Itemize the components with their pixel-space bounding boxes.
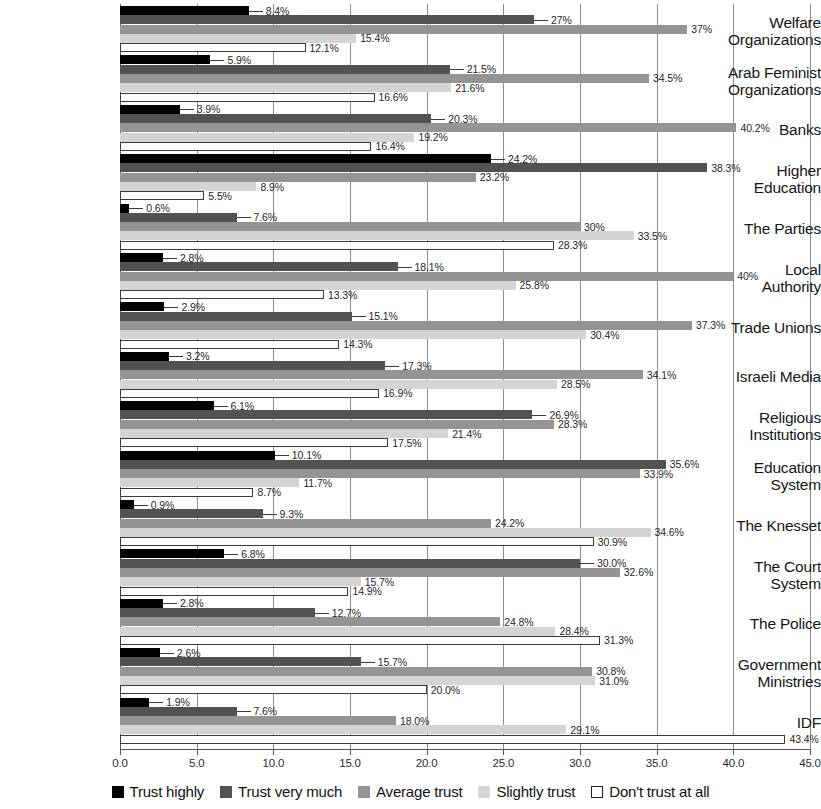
bar-slightly-trust xyxy=(120,133,414,142)
bar-don-t-trust-at-all xyxy=(120,735,785,744)
legend-item-average-trust[interactable]: Average trust xyxy=(358,783,462,800)
value-leader-line xyxy=(532,415,546,416)
bar-trust-very-much xyxy=(120,65,450,74)
legend-item-slightly-trust[interactable]: Slightly trust xyxy=(478,783,575,800)
value-leader-line xyxy=(450,69,464,70)
category-label-welfare-organizations: WelfareOrganizations xyxy=(709,14,821,48)
value-leader-line xyxy=(315,613,329,614)
bar-value-label: 16.9% xyxy=(383,387,412,399)
legend-swatch-black xyxy=(112,786,124,798)
bar-value-label: 8.9% xyxy=(260,181,284,193)
category-label-idf: IDF xyxy=(709,714,821,731)
bar-average-trust xyxy=(120,519,491,528)
value-leader-line xyxy=(361,662,375,663)
bar-trust-very-much xyxy=(120,163,707,172)
bar-value-label: 15.4% xyxy=(360,32,389,44)
legend-item-trust-very-much[interactable]: Trust very much xyxy=(220,783,342,800)
bar-trust-very-much xyxy=(120,460,666,469)
bar-value-label: 11.7% xyxy=(303,477,332,489)
value-leader-line xyxy=(214,406,228,407)
chart-row: The Parties0.6%7.6%30%33.5%28.3% xyxy=(0,204,821,253)
legend-item-don-t-trust-at-all[interactable]: Don't trust at all xyxy=(591,783,709,800)
chart-row: IDF1.9%7.6%18.0%29.1%43.4% xyxy=(0,698,821,747)
bar-trust-highly xyxy=(120,451,275,460)
bar-value-label: 33.5% xyxy=(638,230,667,242)
chart-legend: Trust highlyTrust very muchAverage trust… xyxy=(0,783,821,800)
value-leader-line xyxy=(210,60,224,61)
bar-value-label: 14.9% xyxy=(352,585,381,597)
chart-row: HigherEducation24.2%38.3%23.2%8.9%5.5% xyxy=(0,154,821,203)
bar-don-t-trust-at-all xyxy=(120,43,306,52)
legend-swatch-light-gray xyxy=(478,786,490,798)
chart-row: Banks3.9%20.3%40.2%19.2%16.4% xyxy=(0,105,821,154)
value-leader-line xyxy=(263,514,277,515)
bar-value-label: 23.2% xyxy=(480,171,509,183)
value-leader-line xyxy=(169,356,183,357)
bar-don-t-trust-at-all xyxy=(120,142,371,151)
bar-slightly-trust xyxy=(120,231,634,240)
bar-average-trust xyxy=(120,25,687,34)
bar-trust-very-much xyxy=(120,114,431,123)
value-leader-line xyxy=(129,208,143,209)
category-label-line: System xyxy=(709,476,821,493)
bar-trust-highly xyxy=(120,105,180,114)
bar-value-label: 14.3% xyxy=(343,338,372,350)
bar-don-t-trust-at-all xyxy=(120,685,427,694)
bar-don-t-trust-at-all xyxy=(120,636,600,645)
bar-value-label: 12.1% xyxy=(310,42,339,54)
bar-average-trust xyxy=(120,716,396,725)
bar-value-label: 34.5% xyxy=(653,72,682,84)
legend-swatch-dark-gray xyxy=(220,786,232,798)
value-leader-line xyxy=(385,366,399,367)
category-label-line: Religious xyxy=(709,409,821,426)
bar-value-label: 16.4% xyxy=(375,140,404,152)
bar-average-trust xyxy=(120,617,500,626)
bar-value-label: 8.7% xyxy=(257,486,281,498)
category-label-line: Organizations xyxy=(709,31,821,48)
bar-trust-highly xyxy=(120,6,249,15)
legend-item-label: Slightly trust xyxy=(496,783,575,800)
legend-item-label: Average trust xyxy=(376,783,462,800)
value-leader-line xyxy=(163,258,177,259)
bar-value-label: 16.6% xyxy=(379,91,408,103)
category-label-government-ministries: GovernmentMinistries xyxy=(709,656,821,690)
value-leader-line xyxy=(180,109,194,110)
tick-mark-20.0 xyxy=(427,749,428,755)
category-label-line: The Court xyxy=(709,558,821,575)
legend-item-label: Trust very much xyxy=(238,783,342,800)
bar-trust-very-much xyxy=(120,15,534,24)
bar-value-label: 21.6% xyxy=(455,82,484,94)
category-label-the-knesset: The Knesset xyxy=(709,517,821,534)
chart-row: Arab FeministOrganizations5.9%21.5%34.5%… xyxy=(0,55,821,104)
bar-average-trust xyxy=(120,222,580,231)
value-leader-line xyxy=(352,316,366,317)
x-tick-label: 0.0 xyxy=(112,757,127,769)
x-tick-label: 10.0 xyxy=(263,757,285,769)
category-label-line: IDF xyxy=(709,714,821,731)
tick-mark-35.0 xyxy=(657,749,658,755)
value-leader-line xyxy=(164,307,178,308)
bar-value-label: 28.3% xyxy=(558,239,587,251)
category-label-line: Education xyxy=(709,179,821,196)
bar-trust-very-much xyxy=(120,213,237,222)
legend-item-label: Trust highly xyxy=(130,783,205,800)
bar-average-trust xyxy=(120,173,476,182)
tick-mark-10.0 xyxy=(273,749,274,755)
tick-mark-15.0 xyxy=(350,749,351,755)
legend-item-trust-highly[interactable]: Trust highly xyxy=(112,783,205,800)
bar-value-label: 20.0% xyxy=(431,684,460,696)
chart-row: Israeli Media3.2%17.3%34.1%28.5%16.9% xyxy=(0,352,821,401)
x-tick-label: 15.0 xyxy=(339,757,361,769)
bar-slightly-trust xyxy=(120,528,651,537)
bar-trust-very-much xyxy=(120,559,580,568)
bar-slightly-trust xyxy=(120,725,566,734)
legend-swatch-outline xyxy=(591,786,603,798)
category-label-line: Institutions xyxy=(709,426,821,443)
chart-row: GovernmentMinistries2.6%15.7%30.8%31.0%2… xyxy=(0,648,821,697)
x-tick-label: 35.0 xyxy=(646,757,668,769)
chart-row: The Police2.8%12.7%24.8%28.4%31.3% xyxy=(0,599,821,648)
bar-average-trust xyxy=(120,667,592,676)
x-tick-label: 30.0 xyxy=(569,757,591,769)
tick-mark-0.0 xyxy=(120,749,121,755)
bar-don-t-trust-at-all xyxy=(120,587,348,596)
